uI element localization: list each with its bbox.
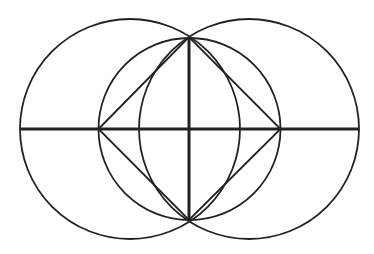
geometric-diagram: [0, 0, 374, 254]
axes-group: [21, 37, 359, 220]
diagram-svg: [0, 0, 374, 254]
